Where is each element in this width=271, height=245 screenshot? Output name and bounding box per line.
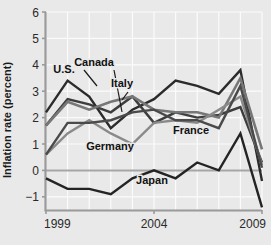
annotation-japan: Japan — [136, 174, 168, 186]
y-tick-label: 0 — [32, 164, 39, 178]
y-tick-label: 3 — [32, 85, 39, 99]
y-tick-label: 5 — [32, 32, 39, 46]
annotation-us: U.S. — [53, 63, 74, 75]
x-tick-label: 2004 — [141, 217, 168, 231]
y-axis-title: Inflation rate (percent) — [1, 62, 13, 178]
x-tick-label: 2009 — [239, 217, 266, 231]
y-tick-label: −1 — [25, 190, 39, 204]
x-tick-label: 1999 — [44, 217, 71, 231]
y-tick-label: 6 — [32, 6, 39, 20]
chart-container: −10123456 199920042009 U.S.U.S.CanadaCan… — [0, 0, 271, 245]
inflation-line-chart: −10123456 199920042009 U.S.U.S.CanadaCan… — [0, 0, 271, 245]
y-tick-label: 1 — [32, 138, 39, 152]
y-tick-label: 4 — [32, 58, 39, 72]
annotation-france: France — [173, 124, 209, 136]
y-tick-label: 2 — [32, 111, 39, 125]
annotation-germany: Germany — [86, 140, 135, 152]
annotation-canada: Canada — [74, 56, 115, 68]
chart-background — [0, 0, 271, 245]
annotation-italy: Italy — [111, 77, 134, 89]
